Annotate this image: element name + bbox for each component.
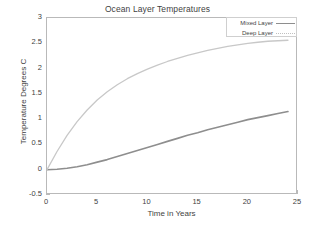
series-line-mixed-layer bbox=[47, 112, 288, 170]
x-tick-label: 25 bbox=[285, 198, 309, 206]
legend-label-mixed-layer: Mixed Layer bbox=[229, 19, 273, 28]
y-axis-label: Temperature Degrees C bbox=[19, 27, 28, 177]
legend-item-deep-layer: Deep Layer bbox=[227, 29, 296, 38]
plot-area bbox=[46, 17, 297, 194]
chart-figure: Ocean Layer Temperatures -0.500.511.522.… bbox=[0, 0, 315, 226]
y-tick-label: -0.5 bbox=[2, 190, 42, 198]
x-tick-label: 10 bbox=[134, 198, 158, 206]
legend-swatch-deep-layer bbox=[276, 33, 295, 34]
legend-swatch-mixed-layer bbox=[276, 23, 295, 24]
chart-legend: Mixed Layer Deep Layer bbox=[226, 17, 297, 37]
x-axis-label: Time in Years bbox=[46, 209, 297, 218]
x-tick-label: 15 bbox=[185, 198, 209, 206]
series-line-deep-layer bbox=[47, 40, 288, 169]
y-tick-label: 3 bbox=[2, 13, 42, 21]
x-tick-label: 0 bbox=[34, 198, 58, 206]
legend-item-mixed-layer: Mixed Layer bbox=[227, 19, 296, 28]
plot-series-svg bbox=[47, 18, 298, 195]
legend-label-deep-layer: Deep Layer bbox=[229, 29, 273, 38]
x-tick-label: 5 bbox=[84, 198, 108, 206]
x-tick-label: 20 bbox=[235, 198, 259, 206]
